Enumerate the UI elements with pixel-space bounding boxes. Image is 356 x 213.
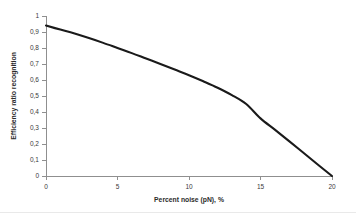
y-axis-title: Efficiency ratio recognition: [10, 52, 18, 140]
data-series-curve: [46, 26, 332, 176]
y-tick-label: 0,3: [30, 124, 39, 131]
y-axis: 00,10,20,30,40,50,60,70,80,91: [30, 12, 46, 179]
y-tick-label: 0,4: [30, 108, 39, 115]
x-tick-label: 5: [116, 183, 120, 190]
x-tick-label: 0: [44, 183, 48, 190]
y-tick-label: 0,5: [30, 92, 39, 99]
x-tick-label: 15: [257, 183, 265, 190]
y-tick-label: 0: [35, 172, 39, 179]
y-tick-label: 0,8: [30, 44, 39, 51]
line-chart: 00,10,20,30,40,50,60,70,80,91 05101520 P…: [0, 0, 356, 213]
chart-figure: 00,10,20,30,40,50,60,70,80,91 05101520 P…: [0, 0, 356, 213]
x-axis-title: Percent noise (pN), %: [154, 196, 224, 204]
y-tick-label: 0,9: [30, 28, 39, 35]
y-tick-label: 0,2: [30, 140, 39, 147]
y-tick-group: 00,10,20,30,40,50,60,70,80,91: [30, 12, 46, 179]
y-tick-label: 0,6: [30, 76, 39, 83]
y-tick-label: 1: [35, 12, 39, 19]
x-tick-label: 20: [328, 183, 336, 190]
x-tick-label: 10: [185, 183, 193, 190]
y-tick-label: 0,1: [30, 156, 39, 163]
x-axis: 05101520: [44, 176, 336, 190]
y-tick-label: 0,7: [30, 60, 39, 67]
x-tick-group: 05101520: [44, 176, 336, 190]
